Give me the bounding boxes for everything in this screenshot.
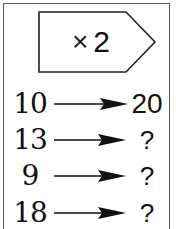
multiply-operator: × <box>72 24 88 60</box>
mapping-row: 10 20 <box>0 90 176 118</box>
rule-tag: × 2 <box>38 11 158 74</box>
output-value: 20 <box>128 90 166 118</box>
arrow-right-icon <box>54 96 128 112</box>
input-value: 13 <box>8 126 52 154</box>
input-value: 18 <box>8 199 52 227</box>
arrow-right-icon <box>54 168 128 184</box>
input-value: 10 <box>8 90 52 118</box>
rule-label: × 2 <box>56 24 126 60</box>
output-unknown: ? <box>128 162 166 190</box>
input-value: 9 <box>8 162 52 190</box>
mapping-row: 13 ? <box>0 126 176 154</box>
arrow-right-icon <box>54 205 128 221</box>
rule-factor: 2 <box>93 24 110 60</box>
mapping-row: 9 ? <box>0 162 176 190</box>
output-unknown: ? <box>128 126 166 154</box>
arrow-right-icon <box>54 132 128 148</box>
output-unknown: ? <box>128 199 166 227</box>
mapping-row: 18 ? <box>0 199 176 227</box>
